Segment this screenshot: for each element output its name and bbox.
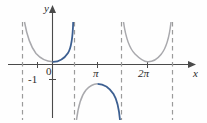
tick-label-pi: π bbox=[93, 68, 99, 79]
tick-label-two-pi: 2π bbox=[138, 68, 149, 79]
curve-branch2-left bbox=[77, 84, 98, 120]
graph-canvas bbox=[0, 0, 207, 123]
curve-branch2-right-highlight bbox=[98, 84, 121, 120]
curve-branch3 bbox=[124, 22, 172, 62]
curve-branch1-right-highlight bbox=[53, 22, 74, 62]
tick-label-origin: 0 bbox=[46, 66, 52, 77]
secant-graph-figure: 0 -1 π 2π y x bbox=[0, 0, 207, 123]
tick-label-neg-one: -1 bbox=[28, 74, 37, 85]
x-axis-label: x bbox=[193, 68, 198, 79]
y-axis-label: y bbox=[44, 3, 49, 14]
x-axis bbox=[8, 61, 196, 68]
curve-branch1-left bbox=[25, 22, 53, 62]
